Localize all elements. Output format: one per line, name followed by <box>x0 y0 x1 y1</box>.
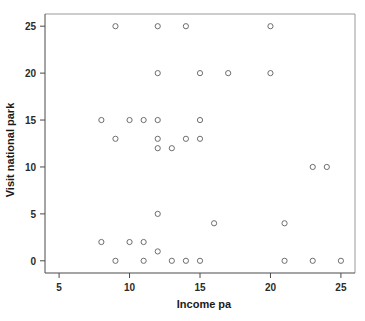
x-tick-label: 15 <box>194 282 206 293</box>
data-point-marker <box>155 24 160 29</box>
data-point-marker <box>197 71 202 76</box>
y-tick-label: 15 <box>25 115 37 126</box>
data-point-marker <box>99 239 104 244</box>
x-tick-label: 5 <box>56 282 62 293</box>
data-point-marker <box>226 71 231 76</box>
data-point-marker <box>183 136 188 141</box>
x-tick-label: 20 <box>265 282 277 293</box>
data-points-layer <box>99 24 344 264</box>
data-point-marker <box>155 71 160 76</box>
data-point-marker <box>310 164 315 169</box>
y-tick-label: 25 <box>25 21 37 32</box>
data-point-marker <box>113 258 118 263</box>
data-point-marker <box>155 136 160 141</box>
plot-canvas: 510152025 0510152025 Income pa Visit nat… <box>0 0 365 321</box>
data-point-marker <box>127 117 132 122</box>
data-point-marker <box>324 164 329 169</box>
data-point-marker <box>169 146 174 151</box>
scatter-plot-figure: 510152025 0510152025 Income pa Visit nat… <box>0 0 365 321</box>
data-point-marker <box>338 258 343 263</box>
data-point-marker <box>155 211 160 216</box>
data-point-marker <box>113 24 118 29</box>
x-tick-label: 10 <box>124 282 136 293</box>
data-point-marker <box>155 249 160 254</box>
data-point-marker <box>155 117 160 122</box>
data-point-marker <box>268 24 273 29</box>
data-point-marker <box>211 221 216 226</box>
axis-spines <box>45 14 355 273</box>
y-tick-label: 0 <box>30 256 36 267</box>
data-point-marker <box>113 136 118 141</box>
data-point-marker <box>169 258 174 263</box>
y-tick-label: 10 <box>25 162 37 173</box>
plot-frame <box>45 14 355 273</box>
y-axis-ticks: 0510152025 <box>25 21 45 267</box>
data-point-marker <box>155 146 160 151</box>
data-point-marker <box>268 71 273 76</box>
x-axis-title: Income pa <box>177 298 232 310</box>
data-point-marker <box>282 258 287 263</box>
data-point-marker <box>141 239 146 244</box>
data-point-marker <box>127 239 132 244</box>
x-tick-label: 25 <box>335 282 347 293</box>
y-axis-title: Visit national park <box>4 102 16 197</box>
data-point-marker <box>99 117 104 122</box>
data-point-marker <box>197 136 202 141</box>
data-point-marker <box>141 258 146 263</box>
data-point-marker <box>183 24 188 29</box>
data-point-marker <box>282 221 287 226</box>
y-tick-label: 20 <box>25 68 37 79</box>
plot-frame-outline <box>45 14 355 273</box>
x-axis-ticks: 510152025 <box>56 273 347 293</box>
data-point-marker <box>197 117 202 122</box>
y-tick-label: 5 <box>30 209 36 220</box>
data-point-marker <box>141 117 146 122</box>
data-point-marker <box>197 258 202 263</box>
data-point-marker <box>310 258 315 263</box>
data-point-marker <box>183 258 188 263</box>
